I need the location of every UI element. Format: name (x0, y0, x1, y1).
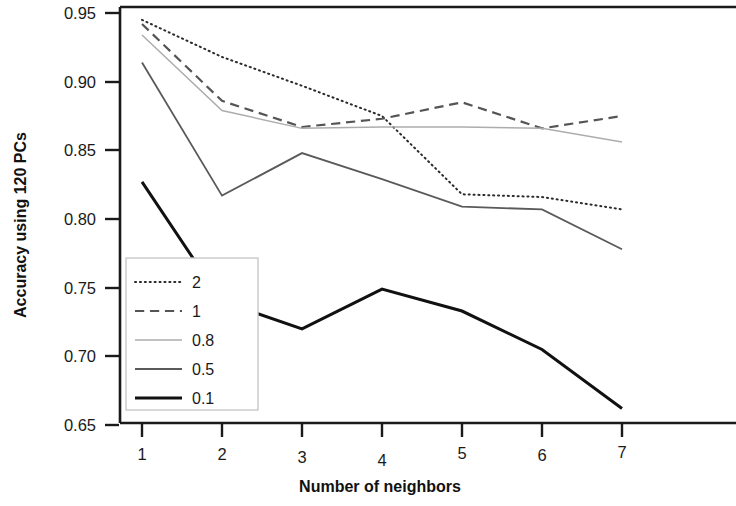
x-tick-label: 7 (617, 443, 626, 461)
y-tick-label: 0.80 (64, 210, 96, 228)
legend: 210.80.50.1 (126, 258, 258, 410)
legend-label-0.8: 0.8 (192, 332, 214, 349)
x-tick-label: 3 (297, 448, 306, 466)
x-tick-label: 4 (377, 451, 386, 469)
line-chart: Accuracy using 120 PCs Number of neighbo… (0, 0, 736, 506)
y-tick-label: 0.95 (64, 4, 96, 22)
figure-background (0, 0, 736, 506)
x-tick-label: 2 (217, 445, 226, 463)
x-tick-label: 6 (537, 446, 546, 464)
legend-label-1: 1 (192, 303, 201, 320)
legend-label-0.5: 0.5 (192, 361, 214, 378)
y-tick-label: 0.70 (64, 347, 96, 365)
legend-label-2: 2 (192, 274, 201, 291)
x-axis-label: Number of neighbors (299, 478, 461, 495)
x-tick-label: 5 (457, 444, 466, 462)
legend-label-0.1: 0.1 (192, 390, 214, 407)
y-tick-label: 0.75 (64, 279, 96, 297)
y-tick-label: 0.90 (64, 73, 96, 91)
y-tick-label: 0.85 (64, 141, 96, 159)
y-tick-label: 0.65 (64, 416, 96, 434)
chart-figure: Accuracy using 120 PCs Number of neighbo… (0, 0, 736, 506)
y-axis-label: Accuracy using 120 PCs (12, 132, 29, 318)
x-tick-label: 1 (137, 445, 146, 463)
